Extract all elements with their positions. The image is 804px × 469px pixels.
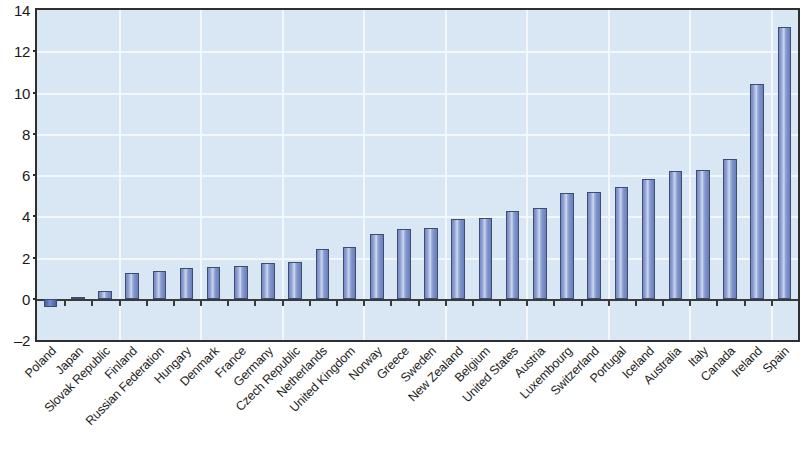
x-tick-mark [282, 299, 284, 306]
bar [587, 192, 601, 299]
x-tick-mark [744, 299, 746, 306]
bar [261, 263, 275, 299]
bar [370, 234, 384, 299]
bar [479, 218, 493, 298]
x-tick-mark [173, 299, 175, 306]
bar [424, 228, 438, 299]
bar [207, 267, 221, 299]
y-tick-label: 4 [0, 208, 30, 225]
x-tick-mark [608, 299, 610, 306]
bar [288, 262, 302, 299]
bar [125, 273, 139, 299]
bar [506, 211, 520, 299]
x-tick-mark [336, 299, 338, 306]
x-tick-mark [91, 299, 93, 306]
bar [153, 271, 167, 299]
y-tick-label: 10 [0, 84, 30, 101]
bar [642, 179, 656, 299]
x-tick-mark [146, 299, 148, 306]
bar [397, 229, 411, 299]
bar [669, 171, 683, 299]
y-tick-label: 14 [0, 2, 30, 19]
bottom-strip [0, 460, 804, 469]
x-tick-mark [390, 299, 392, 306]
x-tick-mark [119, 299, 121, 306]
x-tick-mark [227, 299, 229, 306]
bar [71, 297, 85, 299]
x-tick-mark [363, 299, 365, 306]
bar [723, 159, 737, 299]
bar [451, 219, 465, 298]
x-tick-mark [771, 299, 773, 306]
x-tick-mark [798, 299, 800, 306]
x-tick-mark [418, 299, 420, 306]
x-tick-mark [445, 299, 447, 306]
bar [615, 187, 629, 298]
bar [750, 84, 764, 299]
x-tick-mark [254, 299, 256, 306]
y-tick-label: 8 [0, 125, 30, 142]
x-tick-mark [716, 299, 718, 306]
y-axis: –202468101214 [0, 0, 30, 350]
bar [180, 268, 194, 299]
y-tick-label: 0 [0, 290, 30, 307]
bar [234, 266, 248, 299]
y-tick-label: –2 [0, 332, 30, 349]
bar [696, 170, 710, 299]
bar [533, 208, 547, 299]
bar [343, 247, 357, 299]
bar [778, 27, 792, 299]
x-tick-mark [581, 299, 583, 306]
bars-layer [37, 10, 798, 340]
bar [44, 299, 58, 307]
x-tick-mark [499, 299, 501, 306]
bar [560, 193, 574, 299]
bar [98, 291, 112, 299]
y-tick-label: 12 [0, 43, 30, 60]
bar-chart: –202468101214 PolandJapanSlovak Republic… [0, 0, 804, 469]
x-axis-labels: PolandJapanSlovak RepublicFinlandRussian… [35, 344, 800, 469]
x-tick-mark [472, 299, 474, 306]
x-tick-mark [689, 299, 691, 306]
y-tick-label: 6 [0, 167, 30, 184]
x-tick-mark [200, 299, 202, 306]
x-tick-mark [635, 299, 637, 306]
x-tick-mark [526, 299, 528, 306]
x-tick-mark [64, 299, 66, 306]
y-tick-label: 2 [0, 249, 30, 266]
plot-area [35, 8, 800, 342]
x-tick-mark [662, 299, 664, 306]
x-tick-mark [309, 299, 311, 306]
x-tick-mark [553, 299, 555, 306]
bar [316, 249, 330, 299]
